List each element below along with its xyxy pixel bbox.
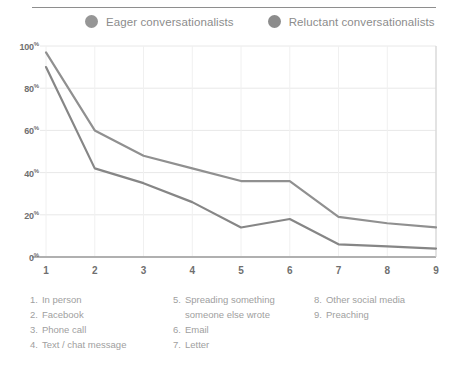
category-key: 1.In person2.Facebook3.Phone call4.Text … xyxy=(30,292,440,352)
key-entry: 5.Spreading something someone else wrote xyxy=(173,292,314,322)
key-entry-number: 6. xyxy=(173,322,181,337)
key-entry: 2.Facebook xyxy=(30,307,173,322)
key-entry: 6.Email xyxy=(173,322,314,337)
x-tick-label: 7 xyxy=(336,265,342,276)
x-tick-label: 9 xyxy=(433,265,439,276)
key-column-2: 5.Spreading something someone else wrote… xyxy=(173,292,314,352)
key-entry-number: 3. xyxy=(30,322,38,337)
key-entry-number: 8. xyxy=(314,292,322,307)
x-tick-label: 6 xyxy=(287,265,293,276)
key-entry-number: 2. xyxy=(30,307,38,322)
x-tick-label: 8 xyxy=(384,265,390,276)
key-entry: 3.Phone call xyxy=(30,322,173,337)
key-entry-label: In person xyxy=(42,292,82,307)
key-entry-label: Facebook xyxy=(42,307,84,322)
key-entry-number: 7. xyxy=(173,337,181,352)
x-tick-label: 2 xyxy=(92,265,98,276)
key-entry: 7.Letter xyxy=(173,337,314,352)
key-entry-label: Email xyxy=(185,322,209,337)
key-entry-label: Phone call xyxy=(42,322,86,337)
x-tick-label: 3 xyxy=(141,265,147,276)
key-entry-label: Letter xyxy=(185,337,209,352)
key-column-3: 8.Other social media9.Preaching xyxy=(314,292,440,322)
key-entry-label: Preaching xyxy=(326,307,369,322)
key-entry: 8.Other social media xyxy=(314,292,440,307)
key-column-1: 1.In person2.Facebook3.Phone call4.Text … xyxy=(30,292,173,352)
key-entry-label: Other social media xyxy=(326,292,405,307)
key-entry-label: Text / chat message xyxy=(42,337,126,352)
key-entry: 1.In person xyxy=(30,292,173,307)
x-tick-label: 4 xyxy=(189,265,195,276)
key-entry-number: 9. xyxy=(314,307,322,322)
key-entry-number: 1. xyxy=(30,292,38,307)
key-entry: 9.Preaching xyxy=(314,307,440,322)
key-entry-number: 4. xyxy=(30,337,38,352)
x-tick-label: 1 xyxy=(43,265,49,276)
key-entry-label: Spreading something someone else wrote xyxy=(185,292,314,322)
key-entry-number: 5. xyxy=(173,292,181,307)
key-entry: 4.Text / chat message xyxy=(30,337,173,352)
x-tick-label: 5 xyxy=(238,265,244,276)
